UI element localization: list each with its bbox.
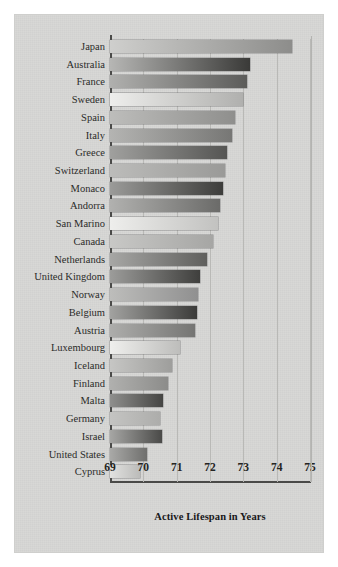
- category-label: Cyprus: [75, 464, 105, 479]
- bar-row[interactable]: Australia: [110, 57, 310, 75]
- bar-row[interactable]: Spain: [110, 110, 310, 128]
- bar-row[interactable]: Canada: [110, 234, 310, 252]
- bar[interactable]: [110, 111, 235, 124]
- bar-row[interactable]: Monaco: [110, 181, 310, 199]
- bar[interactable]: [110, 235, 213, 248]
- category-label: Austria: [74, 323, 105, 338]
- category-label: Germany: [66, 411, 105, 426]
- bar-row[interactable]: Sweden: [110, 92, 310, 110]
- category-label: Spain: [81, 110, 105, 125]
- bar-row[interactable]: Luxembourg: [110, 340, 310, 358]
- category-label: Sweden: [72, 92, 105, 107]
- category-label: Australia: [67, 57, 106, 72]
- category-label: Luxembourg: [51, 340, 105, 355]
- category-label: San Marino: [56, 216, 105, 231]
- bar[interactable]: [110, 394, 163, 407]
- category-label: Andorra: [70, 198, 105, 213]
- category-label: Monaco: [71, 181, 105, 196]
- plot-right-rule: [311, 36, 312, 482]
- category-label: Greece: [75, 145, 105, 160]
- bar[interactable]: [110, 359, 172, 372]
- x-axis-title: Active Lifespan in Years: [110, 511, 310, 522]
- bar-row[interactable]: Finland: [110, 376, 310, 394]
- bar-row[interactable]: Netherlands: [110, 252, 310, 270]
- bar[interactable]: [110, 377, 168, 390]
- bar-row[interactable]: Switzerland: [110, 163, 310, 181]
- category-label: Switzerland: [55, 163, 105, 178]
- category-label: Canada: [74, 234, 106, 249]
- bar-row[interactable]: France: [110, 74, 310, 92]
- x-tick-label: 69: [104, 461, 116, 473]
- bar[interactable]: [110, 270, 200, 283]
- bar[interactable]: [110, 164, 225, 177]
- category-label: Belgium: [69, 305, 105, 320]
- bar[interactable]: [110, 217, 218, 230]
- category-label: Netherlands: [54, 252, 105, 267]
- bar-row[interactable]: San Marino: [110, 216, 310, 234]
- bar[interactable]: [110, 341, 180, 354]
- bar[interactable]: [110, 412, 160, 425]
- bar[interactable]: [110, 199, 220, 212]
- x-tick-label: 71: [171, 461, 183, 473]
- category-label: United States: [49, 447, 105, 462]
- bar[interactable]: [110, 75, 247, 88]
- bar-row[interactable]: Norway: [110, 287, 310, 305]
- bar[interactable]: [110, 40, 292, 53]
- bar[interactable]: [110, 129, 232, 142]
- category-label: Malta: [81, 393, 106, 408]
- x-tick-label: 74: [271, 461, 283, 473]
- bar[interactable]: [110, 324, 195, 337]
- bar-row[interactable]: Malta: [110, 393, 310, 411]
- x-tick-label: 75: [304, 461, 316, 473]
- x-tick-label: 70: [138, 461, 150, 473]
- x-tick-label: 72: [204, 461, 216, 473]
- category-label: Norway: [71, 287, 105, 302]
- bar-row[interactable]: Iceland: [110, 358, 310, 376]
- bar-row[interactable]: Belgium: [110, 305, 310, 323]
- chart-figure: JapanAustraliaFranceSwedenSpainItalyGree…: [14, 14, 324, 553]
- x-tick-label: 73: [238, 461, 250, 473]
- bar-row[interactable]: Greece: [110, 145, 310, 163]
- bar-row[interactable]: Austria: [110, 323, 310, 341]
- category-label: Japan: [81, 39, 105, 54]
- category-label: Iceland: [74, 358, 105, 373]
- bar[interactable]: [110, 253, 207, 266]
- bar[interactable]: [110, 288, 198, 301]
- bar[interactable]: [110, 146, 227, 159]
- bar-row[interactable]: Israel: [110, 429, 310, 447]
- category-label: Finland: [73, 376, 105, 391]
- category-label: Israel: [82, 429, 105, 444]
- bar[interactable]: [110, 182, 223, 195]
- plot-area: JapanAustraliaFranceSwedenSpainItalyGree…: [110, 39, 310, 482]
- bar-row[interactable]: Italy: [110, 128, 310, 146]
- bar[interactable]: [110, 448, 147, 461]
- bar[interactable]: [110, 58, 250, 71]
- bar-row[interactable]: Japan: [110, 39, 310, 57]
- category-label: United Kingdom: [34, 269, 105, 284]
- bar[interactable]: [110, 306, 197, 319]
- bar-row[interactable]: Andorra: [110, 198, 310, 216]
- category-label: Italy: [86, 128, 105, 143]
- category-label: France: [76, 74, 105, 89]
- bar-row[interactable]: United Kingdom: [110, 269, 310, 287]
- bar[interactable]: [110, 430, 162, 443]
- bar[interactable]: [110, 93, 243, 106]
- bar-row[interactable]: Germany: [110, 411, 310, 429]
